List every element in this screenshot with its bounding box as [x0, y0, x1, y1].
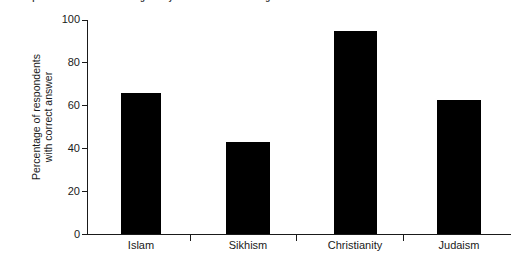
y-axis-title-line2: with correct answer: [42, 12, 54, 222]
x-category-label-christianity: Christianity: [313, 239, 397, 252]
x-axis-line: [87, 234, 511, 235]
y-tick-80: [82, 62, 88, 63]
bar-judaism: [437, 100, 481, 234]
bar-chart-plot: 0 20 40 60 80 100 Percentage of responde…: [0, 0, 513, 257]
x-category-label-judaism: Judaism: [419, 239, 499, 252]
x-category-label-islam: Islam: [101, 239, 181, 252]
x-tick-2: [296, 235, 297, 241]
y-axis-title-line1: Percentage of respondents: [30, 12, 42, 222]
x-category-label-sikhism: Sikhism: [208, 239, 288, 252]
y-tick-60: [82, 105, 88, 106]
bar-christianity: [334, 31, 377, 234]
y-tick-40: [82, 148, 88, 149]
x-tick-1: [190, 235, 191, 241]
bar-sikhism: [226, 142, 270, 234]
y-tick-0: [82, 234, 88, 235]
y-axis-title: Percentage of respondents with correct a…: [30, 12, 54, 222]
y-tick-100: [82, 20, 88, 21]
y-tick-20: [82, 191, 88, 192]
x-tick-3: [403, 235, 404, 241]
figure-container: 2. Respondents' awareness of religious s…: [0, 0, 513, 257]
bar-islam: [121, 93, 161, 234]
y-tick-label-0: 0: [40, 229, 80, 240]
y-axis-line: [87, 20, 88, 235]
